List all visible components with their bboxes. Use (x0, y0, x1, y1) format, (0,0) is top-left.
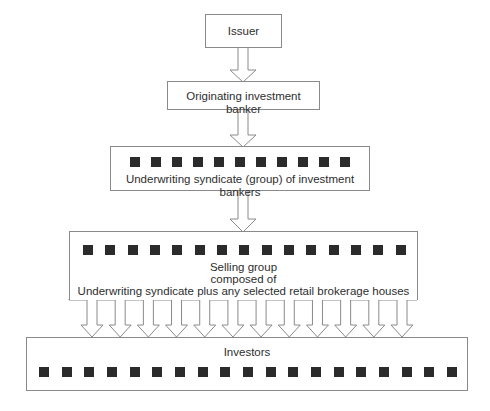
syndicate-label: Underwriting syndicate (group) of invest… (111, 173, 369, 199)
investor-square (402, 367, 412, 377)
investor-square (379, 367, 389, 377)
selling-group-member-square (396, 245, 406, 255)
syndicate-member-square (193, 157, 203, 167)
selling-group-arrows (69, 299, 417, 337)
selling-group-member-square (128, 245, 138, 255)
selling-group-member-square (239, 245, 249, 255)
syndicate-member-square (340, 157, 350, 167)
selling-group-member-square (105, 245, 115, 255)
investor-square (334, 367, 344, 377)
syndicate-member-square (298, 157, 308, 167)
selling-group-member-square (217, 245, 227, 255)
selling-group-member-square (83, 245, 93, 255)
selling-group-box: Selling group composed of Underwriting s… (69, 231, 418, 300)
syndicate-member-square (151, 157, 161, 167)
originator-box: Originating investment banker (167, 81, 320, 110)
investor-square (107, 367, 117, 377)
syndicate-members (130, 157, 350, 167)
originator-label: Originating investment banker (168, 90, 319, 116)
investors-members (39, 367, 457, 377)
investors-box: Investors (26, 337, 468, 391)
selling-group-member-square (195, 245, 205, 255)
selling-group-line3: Underwriting syndicate plus any selected… (70, 285, 417, 298)
investor-square (175, 367, 185, 377)
syndicate-box: Underwriting syndicate (group) of invest… (110, 146, 370, 191)
investor-square (356, 367, 366, 377)
investor-square (424, 367, 434, 377)
investor-square (130, 367, 140, 377)
selling-group-member-square (262, 245, 272, 255)
syndicate-member-square (277, 157, 287, 167)
syndicate-member-square (172, 157, 182, 167)
selling-group-member-square (284, 245, 294, 255)
investor-square (198, 367, 208, 377)
selling-group-member-square (373, 245, 383, 255)
selling-group-member-square (351, 245, 361, 255)
investor-square (447, 367, 457, 377)
syndicate-member-square (319, 157, 329, 167)
investor-square (311, 367, 321, 377)
investor-square (152, 367, 162, 377)
syndicate-member-square (256, 157, 266, 167)
selling-group-member-square (172, 245, 182, 255)
selling-group-member-square (150, 245, 160, 255)
investor-square (266, 367, 276, 377)
investor-square (62, 367, 72, 377)
investor-square (288, 367, 298, 377)
issuer-label: Issuer (206, 25, 281, 38)
arrow-issuer-to-originator (230, 47, 256, 82)
investor-square (84, 367, 94, 377)
investor-square (220, 367, 230, 377)
selling-group-member-square (329, 245, 339, 255)
syndicate-member-square (214, 157, 224, 167)
syndicate-member-square (235, 157, 245, 167)
issuer-box: Issuer (205, 14, 282, 48)
investor-square (39, 367, 49, 377)
investors-label: Investors (27, 346, 467, 359)
selling-group-member-square (306, 245, 316, 255)
selling-group-members (83, 245, 406, 255)
investor-square (243, 367, 253, 377)
syndicate-member-square (130, 157, 140, 167)
